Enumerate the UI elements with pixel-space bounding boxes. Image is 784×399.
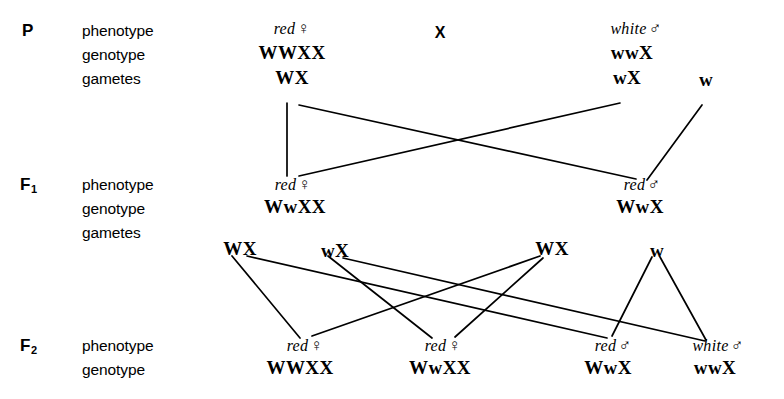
- male-sex-symbol: ♂: [729, 336, 744, 355]
- f2-offspring-2-phenotype-text: red: [425, 337, 447, 354]
- f2-offspring-3-genotype: WwX: [584, 358, 632, 377]
- genetics-cross-diagram: P phenotype genotype gametes red♀ WWXX W…: [0, 0, 784, 399]
- f2-offspring-4-genotype: wwX: [694, 358, 736, 377]
- f1-female-gamete-wx-recessive: wX: [321, 241, 349, 260]
- f1-female-genotype: WwXX: [264, 197, 326, 216]
- p-male-gamete-wx: wX: [613, 68, 641, 87]
- p-female-phenotype-text: red: [274, 20, 296, 37]
- f1-male-genotype: WwX: [616, 197, 664, 216]
- line-f1-male-wx-to-f2-1: [312, 256, 540, 336]
- f1-female-phenotype: red♀: [275, 176, 312, 193]
- female-sex-symbol: ♀: [295, 19, 310, 38]
- p-male-phenotype-text: white: [610, 20, 646, 37]
- row-term-phenotype-f2: phenotype: [82, 338, 154, 354]
- f2-offspring-2-phenotype: red♀: [425, 337, 462, 354]
- line-f1-male-w-to-f2-4: [660, 257, 706, 340]
- line-f1-wx-a-to-f2-3: [247, 256, 607, 338]
- f2-offspring-3-phenotype-text: red: [595, 337, 617, 354]
- generation-label-f1: F1: [20, 176, 37, 193]
- line-p-female-wx-to-f1-male: [299, 105, 636, 179]
- p-male-genotype: wwX: [611, 43, 653, 62]
- f1-male-phenotype-text: red: [624, 176, 646, 193]
- cross-symbol-p: X: [435, 25, 446, 41]
- row-term-gametes-f1: gametes: [82, 225, 141, 241]
- row-term-phenotype-p: phenotype: [82, 23, 154, 39]
- row-term-phenotype-f1: phenotype: [82, 177, 154, 193]
- male-sex-symbol: ♂: [645, 175, 660, 194]
- f2-offspring-1-phenotype-text: red: [287, 337, 309, 354]
- row-term-gametes-p: gametes: [82, 71, 141, 87]
- female-sex-symbol: ♀: [308, 336, 323, 355]
- line-f1-male-w-to-f2-3: [612, 257, 652, 336]
- p-female-genotype: WWXX: [258, 43, 325, 62]
- p-male-phenotype: white♂: [610, 20, 661, 37]
- row-term-genotype-f1: genotype: [82, 201, 145, 217]
- generation-label-f2-main: F: [20, 336, 31, 355]
- generation-label-f2-sub: 2: [31, 344, 37, 356]
- p-female-phenotype: red♀: [274, 20, 311, 37]
- f2-offspring-1-genotype: WWXX: [266, 358, 333, 377]
- row-term-genotype-p: genotype: [82, 47, 145, 63]
- f2-offspring-4-phenotype: white♂: [692, 337, 743, 354]
- generation-label-f1-main: F: [20, 175, 31, 194]
- line-p-male-w-to-f1-male: [647, 105, 702, 180]
- generation-label-p: P: [22, 22, 34, 39]
- line-f1-wx-b-to-f2-2: [328, 256, 432, 338]
- generation-label-f1-sub: 1: [31, 183, 37, 195]
- generation-label-f2: F2: [20, 337, 37, 354]
- p-female-gamete-wx: WX: [275, 68, 309, 87]
- male-sex-symbol: ♂: [647, 19, 662, 38]
- f2-offspring-3-phenotype: red♂: [595, 337, 632, 354]
- f1-female-gamete-wx-dominant: WX: [223, 239, 257, 258]
- male-sex-symbol: ♂: [616, 336, 631, 355]
- line-f1-wx-a-to-f2-1: [232, 256, 300, 338]
- line-p-male-wx-to-f1-female: [299, 103, 620, 176]
- line-f1-wx-b-to-f2-4: [343, 258, 705, 341]
- p-male-gamete-w: w: [699, 70, 713, 89]
- f1-male-gamete-w: w: [650, 241, 664, 260]
- f2-offspring-4-phenotype-text: white: [692, 337, 728, 354]
- female-sex-symbol: ♀: [296, 175, 311, 194]
- f1-male-gamete-wx: WX: [535, 239, 569, 258]
- f1-female-phenotype-text: red: [275, 176, 297, 193]
- row-term-genotype-f2: genotype: [82, 362, 145, 378]
- f1-male-phenotype: red♂: [624, 176, 661, 193]
- f2-offspring-1-phenotype: red♀: [287, 337, 324, 354]
- f2-offspring-2-genotype: WwXX: [409, 358, 471, 377]
- female-sex-symbol: ♀: [446, 336, 461, 355]
- line-f1-male-wx-to-f2-2: [455, 258, 543, 337]
